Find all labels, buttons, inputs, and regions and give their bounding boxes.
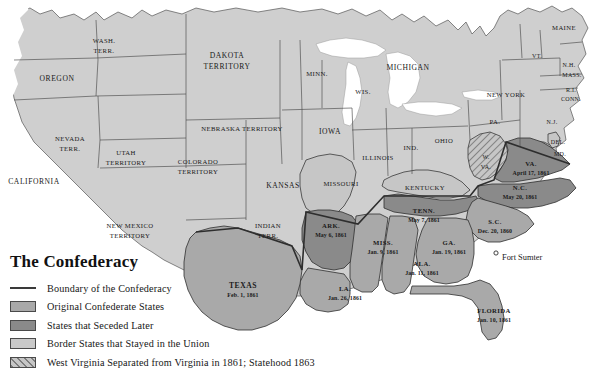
label-virginia-date: April 17, 1861: [513, 170, 550, 176]
label-rhode-island: R.I.: [566, 87, 576, 93]
label-virginia: VA.: [525, 160, 537, 167]
label-colorado-territory: COLORADO: [178, 158, 218, 165]
legend-item-original-confederate: Original Confederate States: [8, 298, 388, 317]
legend-item-west-virginia: West Virginia Separated from Virginia in…: [8, 353, 388, 372]
label-florida-date: Jan. 10, 1861: [477, 317, 511, 323]
label-new-jersey: N.J.: [547, 119, 558, 125]
label-minnesota: MINN.: [306, 70, 328, 77]
map-legend: The Confederacy Boundary of the Confeder…: [8, 252, 388, 372]
label-missouri: MISSOURI: [323, 180, 358, 187]
label-florida: FLORIDA: [477, 307, 511, 314]
label-arkansas-date: May 6, 1861: [315, 232, 347, 238]
legend-title: The Confederacy: [10, 252, 388, 272]
label-georgia-date: Jan. 19, 1861: [432, 249, 466, 255]
label-new-york: NEW YORK: [487, 91, 526, 98]
label-iowa: IOWA: [319, 127, 341, 136]
legend-item-border-states: Border States that Stayed in the Union: [8, 335, 388, 354]
legend-item-label: States that Seceded Later: [47, 320, 153, 331]
label-tennessee: TENN.: [413, 207, 435, 214]
label-nebraska-territory: NEBRASKA TERRITORY: [201, 125, 282, 132]
label-west-virginia: W.: [482, 154, 489, 160]
label-mississippi: MISS.: [373, 239, 393, 246]
label-alabama: ALA.: [413, 260, 430, 267]
label-dakota-territory: DAKOTA: [210, 51, 245, 60]
label-alabama-date: Jan. 11, 1861: [405, 270, 439, 276]
label-west-virginia-2: VA.: [481, 164, 491, 170]
legend-item-boundary: Boundary of the Confederacy: [8, 279, 388, 298]
label-kentucky: KENTUCKY: [405, 184, 445, 191]
label-utah-territory: UTAH: [116, 149, 136, 156]
boundary-line-swatch-icon: [10, 283, 36, 294]
label-indian-territory-2: TERR.: [258, 232, 279, 239]
label-maryland: MD.: [554, 151, 566, 157]
label-oregon: OREGON: [40, 74, 75, 83]
label-new-mexico-territory-2: TERRITORY: [110, 232, 151, 239]
fort-sumter-marker-icon: [494, 251, 498, 255]
label-colorado-territory-2: TERRITORY: [178, 168, 219, 175]
original-confederate-swatch-icon: [10, 301, 36, 312]
label-kansas: KANSAS: [266, 181, 300, 190]
label-indian-territory: INDIAN: [255, 222, 281, 229]
label-south-carolina: S.C.: [488, 218, 502, 225]
label-north-carolina: N.C.: [513, 184, 528, 191]
label-utah-territory-2: TERRITORY: [106, 159, 147, 166]
label-fort-sumter: Fort Sumter: [502, 253, 542, 262]
label-indiana: IND.: [403, 144, 418, 151]
label-ohio: OHIO: [435, 137, 453, 144]
label-washington-territory: WASH.: [93, 37, 116, 44]
hatched-swatch-icon: [10, 357, 36, 368]
label-georgia: GA.: [443, 239, 456, 246]
label-south-carolina-date: Dec. 20, 1860: [478, 228, 512, 234]
label-new-mexico-territory: NEW MEXICO: [106, 222, 153, 229]
legend-item-label: Boundary of the Confederacy: [47, 283, 172, 294]
label-illinois: ILLINOIS: [362, 154, 393, 161]
label-massachusetts: MASS.: [562, 72, 582, 78]
label-nevada-territory-2: TERR.: [60, 145, 81, 152]
legend-item-label: West Virginia Separated from Virginia in…: [47, 357, 315, 368]
confederacy-map: WASH. TERR. OREGON CALIFORNIA NEVADA TER…: [0, 0, 596, 389]
label-pennsylvania: PA.: [490, 118, 501, 125]
border-state-swatch-icon: [10, 338, 36, 349]
label-wisconsin: WIS.: [355, 88, 371, 95]
label-vermont: VT.: [532, 53, 542, 59]
label-connecticut: CONN.: [561, 96, 581, 102]
label-california: CALIFORNIA: [8, 177, 60, 186]
label-michigan: MICHIGAN: [386, 63, 429, 72]
legend-item-label: Original Confederate States: [47, 301, 164, 312]
label-maine: MAINE: [552, 24, 576, 31]
label-arkansas: ARK.: [322, 222, 340, 229]
seceded-later-swatch-icon: [10, 320, 36, 331]
label-dakota-territory-2: TERRITORY: [203, 62, 250, 71]
label-washington-territory-2: TERR.: [94, 47, 115, 54]
label-north-carolina-date: May 20, 1861: [503, 194, 538, 200]
label-delaware: DEL.: [551, 139, 566, 145]
label-tennessee-date: May 7, 1861: [408, 217, 440, 223]
label-new-hampshire: N.H.: [563, 62, 576, 68]
legend-item-label: Border States that Stayed in the Union: [47, 338, 209, 349]
legend-item-seceded-later: States that Seceded Later: [8, 316, 388, 335]
label-nevada-territory: NEVADA: [55, 135, 85, 142]
